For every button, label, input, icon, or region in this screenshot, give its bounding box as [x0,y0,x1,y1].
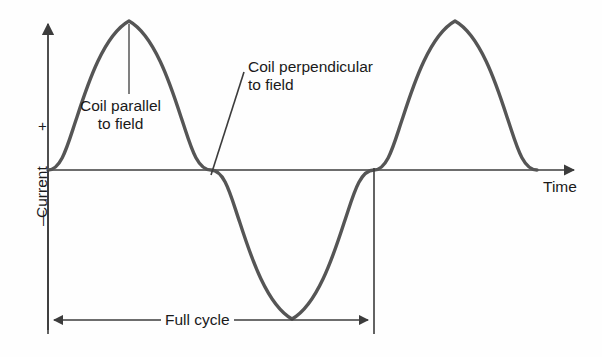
full-cycle-label: Full cycle [161,311,234,329]
x-axis-label: Time [543,178,577,196]
y-axis-positive-sign: + [33,122,51,131]
diagram-canvas [0,0,602,357]
annotation-coil-perpendicular: Coil perpendicular to field [248,58,373,95]
annotation-coil-perpendicular-line1: Coil perpendicular [248,58,373,76]
annotation-coil-perpendicular-line2: to field [248,76,373,94]
annotation-coil-parallel: Coil parallel to field [80,97,161,134]
coil-perpendicular-leader-line [211,72,244,175]
annotation-coil-parallel-line2: to field [80,115,161,133]
sine-wave-diagram: Current + — Time Coil parallel to field … [0,0,602,357]
y-axis-negative-sign: — [33,211,51,227]
annotation-coil-parallel-line1: Coil parallel [80,97,161,115]
